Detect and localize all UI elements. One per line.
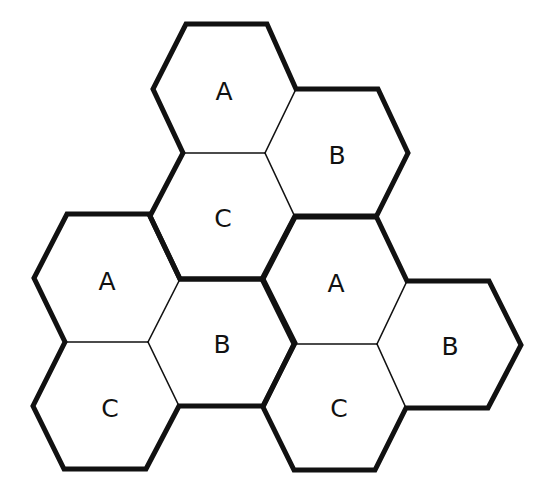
hex-label-top-c: C <box>214 204 231 233</box>
top-cluster-outline <box>150 24 408 279</box>
inner-edges <box>65 89 407 408</box>
right-cluster-outline <box>262 216 521 470</box>
hex-label-top-b: B <box>328 141 345 170</box>
hex-label-right-a: A <box>327 269 344 298</box>
hex-label-right-b: B <box>441 332 458 361</box>
hex-label-left-a: A <box>98 267 115 296</box>
hexagon-tiling-diagram: A B C A B C A B C <box>0 0 543 498</box>
hex-label-left-b: B <box>213 330 230 359</box>
hex-label-right-c: C <box>330 394 347 423</box>
hex-label-left-c: C <box>101 394 118 423</box>
hex-label-top-a: A <box>215 77 232 106</box>
